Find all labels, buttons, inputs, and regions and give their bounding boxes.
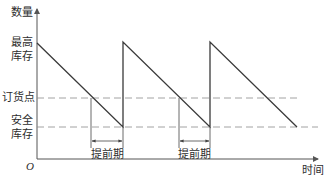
max-stock-label-line1: 最高 — [11, 36, 33, 49]
safety-stock-label-line1: 安全 — [11, 114, 33, 127]
safety-stock-label-line2: 库存 — [11, 128, 33, 141]
max-stock-label-line2: 库存 — [11, 50, 33, 63]
origin-label: O — [26, 160, 34, 173]
reorder-point-label: 订货点 — [2, 91, 35, 104]
y-axis-label: 数量 — [11, 6, 33, 19]
inventory-level-curve — [37, 42, 297, 127]
inventory-sawtooth-diagram — [0, 0, 329, 181]
x-axis-label: 时间 — [302, 164, 324, 177]
lead-time-label-1: 提前期 — [91, 148, 124, 161]
lead-time-label-2: 提前期 — [178, 148, 211, 161]
